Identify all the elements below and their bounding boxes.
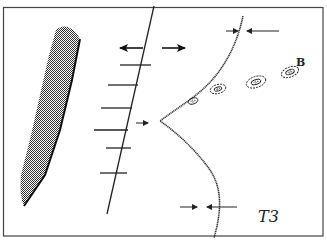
hatched-body [20,26,80,206]
boudin [245,74,267,91]
curved-boundary [160,16,243,238]
panel-label: T3 [258,207,279,226]
diagram-canvas: B T3 [0,0,327,244]
boudins [187,64,300,106]
fault-line [94,6,154,214]
boudin [209,83,227,96]
boudin-label: B [296,56,305,69]
